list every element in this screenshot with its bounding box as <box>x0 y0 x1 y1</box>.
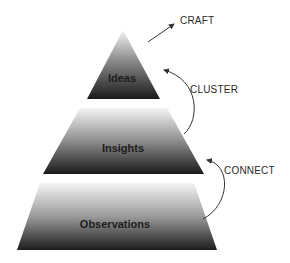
observations-shape <box>17 183 217 250</box>
transition-connect: CONNECT <box>203 160 275 219</box>
pyramid-diagram: Ideas Insights Observations CRAFT CLUSTE… <box>0 0 290 263</box>
connect-label: CONNECT <box>224 165 275 176</box>
insights-shape <box>43 108 204 174</box>
tier-observations: Observations <box>17 183 217 250</box>
ideas-label: Ideas <box>108 72 136 84</box>
connect-arrow-icon <box>203 160 225 219</box>
tier-insights: Insights <box>43 108 204 174</box>
observations-label: Observations <box>80 218 150 230</box>
craft-arrow-icon <box>148 24 174 42</box>
insights-label: Insights <box>102 142 144 154</box>
craft-label: CRAFT <box>180 15 214 26</box>
ideas-shape <box>87 30 160 99</box>
cluster-label: CLUSTER <box>190 84 238 95</box>
tier-ideas: Ideas <box>87 30 160 99</box>
transition-craft: CRAFT <box>148 15 214 42</box>
